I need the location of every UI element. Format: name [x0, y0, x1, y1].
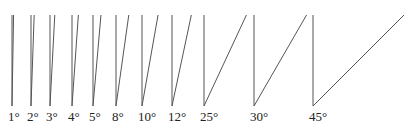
angle-label: 12° [168, 109, 186, 124]
angle-label: 2° [27, 109, 39, 124]
angle-label: 4° [68, 109, 80, 124]
angle-1-deg: 1° [8, 15, 20, 124]
angle-4-deg: 4° [68, 15, 80, 124]
angled-ray [142, 15, 158, 106]
angle-8-deg: 8° [112, 15, 129, 124]
angle-45-deg: 45° [309, 15, 404, 124]
angle-label: 30° [250, 109, 268, 124]
angle-5-deg: 5° [89, 15, 101, 124]
angle-label: 1° [8, 109, 20, 124]
angled-ray [204, 15, 246, 106]
angle-label: 5° [89, 109, 101, 124]
angled-ray [313, 15, 404, 106]
angled-ray [172, 15, 191, 106]
angle-3-deg: 3° [46, 15, 58, 124]
angle-label: 3° [46, 109, 58, 124]
angle-30-deg: 30° [250, 15, 307, 124]
angled-ray [93, 15, 101, 106]
angle-12-deg: 12° [168, 15, 191, 124]
angle-10-deg: 10° [138, 15, 158, 124]
angle-2-deg: 2° [27, 15, 39, 124]
angled-ray [116, 15, 129, 106]
angle-label: 45° [309, 109, 327, 124]
angled-ray [254, 15, 307, 106]
angled-ray [72, 15, 78, 106]
angle-label: 8° [112, 109, 124, 124]
angle-diagram: 1°2°3°4°5°8°10°12°25°30°45° [0, 0, 408, 129]
angled-ray [50, 15, 55, 106]
angle-label: 10° [138, 109, 156, 124]
angle-25-deg: 25° [200, 15, 246, 124]
angle-label: 25° [200, 109, 218, 124]
